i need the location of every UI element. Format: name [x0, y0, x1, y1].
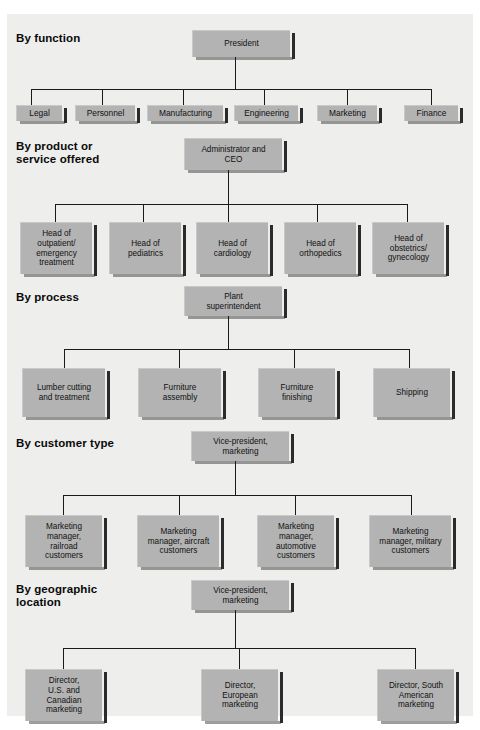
connector-drop: [294, 349, 295, 368]
node-head-obstetrics-gynecology[interactable]: Head of obstetrics/ gynecology: [372, 222, 444, 274]
connector-drop: [317, 204, 318, 222]
connector-drop: [409, 349, 410, 368]
node-head-orthopedics[interactable]: Head of orthopedics: [284, 222, 356, 274]
node-head-pediatrics[interactable]: Head of pediatrics: [109, 222, 181, 274]
node-legal[interactable]: Legal: [16, 105, 62, 121]
node-marketing-manager-railroad[interactable]: Marketing manager, railroad customers: [25, 515, 102, 567]
connector-drop: [179, 349, 180, 368]
connector-drop: [63, 495, 64, 515]
connector-drop: [183, 89, 184, 105]
section-title-by-function: By function: [16, 32, 80, 45]
node-finance[interactable]: Finance: [404, 105, 458, 121]
connector-vertical: [228, 170, 229, 204]
node-director-european-marketing[interactable]: Director, European marketing: [201, 669, 278, 721]
node-marketing[interactable]: Marketing: [317, 105, 377, 121]
node-director-south-american-marketing[interactable]: Director, South American marketing: [377, 669, 454, 721]
connector-vertical: [228, 316, 229, 349]
connector-drop: [55, 204, 56, 222]
node-marketing-manager-automotive[interactable]: Marketing manager, automotive customers: [257, 515, 334, 567]
node-administrator-ceo[interactable]: Administrator and CEO: [184, 138, 282, 170]
connector-drop: [264, 89, 265, 105]
connector-vertical: [235, 57, 236, 89]
connector-vertical: [235, 461, 236, 495]
connector-drop: [347, 89, 348, 105]
section-title-by-customer-type: By customer type: [16, 437, 114, 450]
section-title-by-product: By product or service offered: [16, 140, 99, 165]
connector-drop: [63, 648, 64, 669]
section-title-by-geographic-location: By geographic location: [16, 583, 97, 608]
node-marketing-manager-aircraft[interactable]: Marketing manager, aircraft customers: [137, 515, 219, 567]
node-shipping[interactable]: Shipping: [373, 368, 450, 417]
connector-horizontal: [31, 89, 431, 90]
connector-drop: [411, 495, 412, 515]
connector-drop: [143, 204, 144, 222]
connector-horizontal: [55, 204, 407, 205]
connector-vertical: [235, 610, 236, 648]
connector-drop: [415, 648, 416, 669]
node-lumber-cutting-treatment[interactable]: Lumber cutting and treatment: [22, 368, 105, 417]
connector-horizontal: [63, 495, 411, 496]
connector-drop: [239, 648, 240, 669]
node-manufacturing[interactable]: Manufacturing: [147, 105, 223, 121]
figure-panel: By function President Legal Personnel Ma…: [7, 14, 473, 716]
connector-horizontal: [64, 349, 409, 350]
connector-drop: [31, 89, 32, 105]
node-head-cardiology[interactable]: Head of cardiology: [196, 222, 268, 274]
node-director-us-canadian-marketing[interactable]: Director, U.S. and Canadian marketing: [25, 669, 102, 721]
connector-drop: [64, 349, 65, 368]
node-furniture-finishing[interactable]: Furniture finishing: [258, 368, 335, 417]
org-chart-figure: By function President Legal Personnel Ma…: [0, 0, 480, 730]
node-vice-president-marketing-customer[interactable]: Vice-president, marketing: [191, 431, 289, 461]
connector-drop: [228, 204, 229, 222]
node-engineering[interactable]: Engineering: [234, 105, 298, 121]
node-plant-superintendent[interactable]: Plant superintendent: [184, 286, 282, 316]
connector-drop: [295, 495, 296, 515]
node-marketing-manager-military[interactable]: Marketing manager, military customers: [369, 515, 451, 567]
node-head-outpatient-emergency[interactable]: Head of outpatient/ emergency treatment: [20, 222, 92, 274]
connector-drop: [407, 204, 408, 222]
node-furniture-assembly[interactable]: Furniture assembly: [138, 368, 221, 417]
connector-drop: [179, 495, 180, 515]
connector-drop: [431, 89, 432, 105]
node-personnel[interactable]: Personnel: [75, 105, 135, 121]
node-president[interactable]: President: [192, 30, 290, 57]
section-title-by-process: By process: [16, 291, 79, 304]
connector-drop: [102, 89, 103, 105]
node-vice-president-marketing-geographic[interactable]: Vice-president, marketing: [191, 580, 289, 610]
